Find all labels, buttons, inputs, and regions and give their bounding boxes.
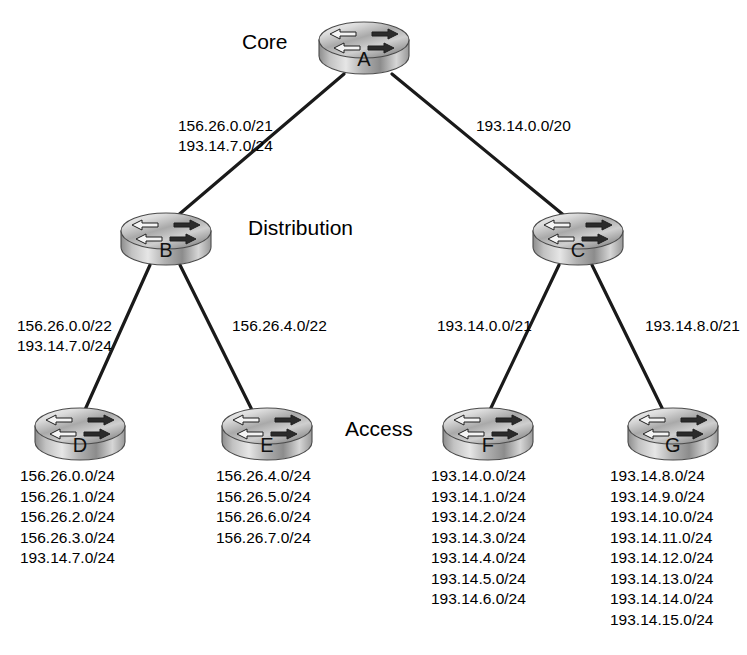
subnet-entry: 193.14.9.0/24: [610, 487, 713, 508]
router-label-e: E: [219, 434, 315, 457]
subnet-list-g: 193.14.8.0/24193.14.9.0/24193.14.10.0/24…: [610, 466, 713, 630]
subnet-entry: 193.14.4.0/24: [431, 548, 526, 569]
subnet-entry: 193.14.15.0/24: [610, 610, 713, 631]
subnet-entry: 156.26.2.0/24: [20, 507, 115, 528]
tier-label-access: Access: [345, 417, 413, 441]
link-label-line: 193.14.0.0/20: [476, 116, 571, 136]
subnet-entry: 193.14.3.0/24: [431, 528, 526, 549]
link-label-line: 193.14.0.0/21: [437, 316, 532, 336]
tier-label-core: Core: [242, 30, 288, 54]
router-a[interactable]: A: [316, 18, 412, 80]
subnet-entry: 156.26.7.0/24: [216, 528, 311, 549]
network-topology-diagram: ABCDEFG CoreDistributionAccess 156.26.0.…: [0, 0, 747, 655]
subnet-entry: 156.26.0.0/24: [20, 466, 115, 487]
router-c[interactable]: C: [530, 209, 626, 271]
subnet-entry: 156.26.6.0/24: [216, 507, 311, 528]
router-d[interactable]: D: [32, 404, 128, 466]
link-label-b-d: 156.26.0.0/22193.14.7.0/24: [17, 316, 112, 356]
subnet-entry: 156.26.4.0/24: [216, 466, 311, 487]
link-label-c-g: 193.14.8.0/21: [645, 316, 740, 336]
link-label-c-f: 193.14.0.0/21: [437, 316, 532, 336]
subnet-entry: 193.14.12.0/24: [610, 548, 713, 569]
subnet-entry: 193.14.8.0/24: [610, 466, 713, 487]
subnet-entry: 193.14.5.0/24: [431, 569, 526, 590]
link-label-b-e: 156.26.4.0/22: [232, 316, 327, 336]
subnet-list-f: 193.14.0.0/24193.14.1.0/24193.14.2.0/241…: [431, 466, 526, 610]
router-label-d: D: [32, 434, 128, 457]
router-f[interactable]: F: [440, 404, 536, 466]
subnet-entry: 193.14.0.0/24: [431, 466, 526, 487]
link-a-c: [392, 74, 566, 217]
router-label-g: G: [625, 434, 721, 457]
link-label-line: 156.26.0.0/21: [178, 116, 273, 136]
link-c-g: [592, 265, 664, 412]
subnet-entry: 193.14.6.0/24: [431, 589, 526, 610]
subnet-entry: 193.14.14.0/24: [610, 589, 713, 610]
router-label-c: C: [530, 239, 626, 262]
link-label-line: 193.14.8.0/21: [645, 316, 740, 336]
subnet-entry: 193.14.1.0/24: [431, 487, 526, 508]
router-label-b: B: [118, 239, 214, 262]
subnet-entry: 193.14.7.0/24: [20, 548, 115, 569]
link-label-line: 156.26.0.0/22: [17, 316, 112, 336]
link-label-line: 193.14.7.0/24: [178, 136, 273, 156]
subnet-entry: 156.26.5.0/24: [216, 487, 311, 508]
link-c-f: [489, 265, 559, 412]
subnet-entry: 193.14.10.0/24: [610, 507, 713, 528]
subnet-entry: 193.14.11.0/24: [610, 528, 713, 549]
link-label-line: 156.26.4.0/22: [232, 316, 327, 336]
subnet-list-d: 156.26.0.0/24156.26.1.0/24156.26.2.0/241…: [20, 466, 115, 569]
subnet-entry: 193.14.13.0/24: [610, 569, 713, 590]
link-label-line: 193.14.7.0/24: [17, 336, 112, 356]
link-b-e: [180, 265, 253, 412]
router-label-a: A: [316, 48, 412, 71]
router-g[interactable]: G: [625, 404, 721, 466]
router-e[interactable]: E: [219, 404, 315, 466]
link-label-a-c: 193.14.0.0/20: [476, 116, 571, 136]
link-label-a-b: 156.26.0.0/21193.14.7.0/24: [178, 116, 273, 156]
subnet-entry: 193.14.2.0/24: [431, 507, 526, 528]
subnet-entry: 156.26.3.0/24: [20, 528, 115, 549]
tier-label-distribution: Distribution: [248, 216, 353, 240]
router-b[interactable]: B: [118, 209, 214, 271]
subnet-list-e: 156.26.4.0/24156.26.5.0/24156.26.6.0/241…: [216, 466, 311, 548]
subnet-entry: 156.26.1.0/24: [20, 487, 115, 508]
router-label-f: F: [440, 434, 536, 457]
